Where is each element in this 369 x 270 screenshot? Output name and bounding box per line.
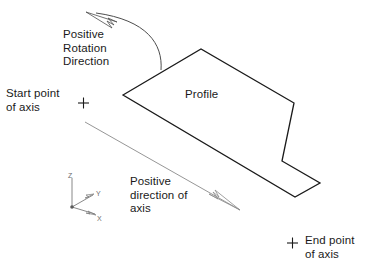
start-point-crosshair-icon <box>78 98 89 109</box>
ucs-z-axis-label: Z <box>68 172 72 179</box>
positive-direction-of-axis-label: Positive direction of axis <box>130 175 187 216</box>
end-point-crosshair-icon <box>287 238 298 249</box>
ucs-origin-marker <box>70 205 74 209</box>
ucs-y-axis-line <box>72 195 93 207</box>
ucs-y-axis-label: Y <box>96 190 101 197</box>
ucs-x-axis-label: X <box>97 215 102 222</box>
ucs-axes-icon <box>70 178 96 215</box>
profile-label: Profile <box>185 88 218 102</box>
rotation-direction-arrowhead-icon <box>86 12 117 28</box>
start-point-label: Start point of axis <box>6 87 60 114</box>
end-point-label: End point of axis <box>305 234 355 261</box>
diagram-canvas <box>0 0 369 270</box>
positive-rotation-direction-label: Positive Rotation Direction <box>63 28 109 69</box>
revolve-axis-diagram: Start point of axis End point of axis Po… <box>0 0 369 270</box>
